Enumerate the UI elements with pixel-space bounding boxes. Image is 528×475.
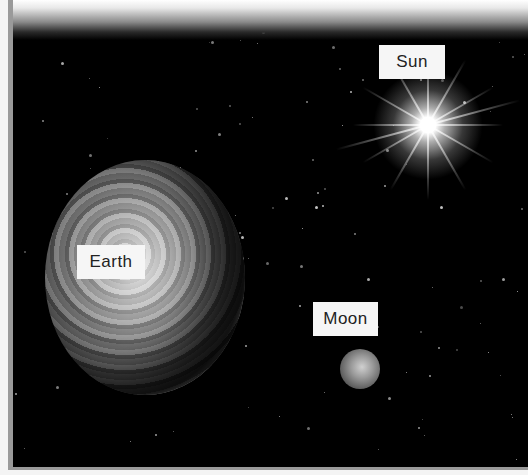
star: [209, 42, 210, 43]
star: [367, 278, 370, 281]
star: [440, 206, 443, 209]
star: [424, 435, 425, 436]
space-background: [13, 0, 528, 467]
star: [354, 233, 356, 235]
star: [432, 287, 433, 288]
star: [502, 278, 505, 281]
star: [499, 42, 500, 43]
earth-label: Earth: [77, 245, 145, 279]
sun-label: Sun: [379, 45, 445, 79]
star: [257, 43, 258, 44]
star: [456, 349, 458, 351]
star: [89, 78, 90, 79]
star: [99, 87, 100, 88]
star: [342, 125, 343, 126]
moon-image: [340, 349, 380, 389]
star: [488, 352, 489, 353]
star: [516, 459, 517, 460]
star: [240, 40, 241, 41]
star: [130, 441, 131, 442]
star: [279, 416, 280, 417]
star: [241, 236, 244, 239]
star: [322, 205, 324, 207]
star: [306, 101, 308, 103]
star: [524, 54, 525, 55]
star: [61, 62, 64, 65]
earth-image: [45, 160, 245, 395]
star: [252, 117, 253, 118]
star: [429, 375, 431, 377]
star: [420, 331, 422, 333]
star: [315, 206, 318, 209]
star: [332, 46, 335, 49]
star: [378, 449, 379, 450]
star: [422, 419, 423, 420]
star: [155, 434, 157, 436]
star: [500, 375, 501, 376]
star: [56, 386, 59, 389]
star: [512, 417, 513, 418]
star: [195, 150, 197, 152]
star: [406, 372, 407, 373]
star: [480, 323, 481, 324]
star: [196, 108, 198, 110]
star: [173, 431, 174, 432]
star: [266, 262, 269, 265]
star: [15, 393, 17, 395]
star: [239, 232, 241, 234]
star: [24, 448, 25, 449]
star: [480, 280, 482, 282]
top-haze: [13, 0, 528, 40]
star: [239, 123, 241, 125]
star: [235, 215, 236, 216]
star: [324, 392, 325, 393]
star: [302, 228, 303, 229]
star: [300, 265, 303, 268]
star: [66, 193, 68, 195]
star: [248, 258, 249, 259]
star: [521, 208, 523, 210]
star: [299, 305, 301, 307]
star: [245, 345, 247, 347]
star: [285, 197, 288, 200]
star: [307, 427, 310, 430]
star: [418, 427, 420, 429]
star: [107, 138, 108, 139]
star: [312, 159, 314, 161]
moon-label: Moon: [313, 302, 378, 336]
sun-image: [353, 60, 503, 190]
star: [438, 347, 440, 349]
star: [511, 414, 512, 415]
star: [218, 133, 221, 136]
star: [272, 207, 274, 209]
star: [339, 68, 341, 70]
star: [460, 306, 463, 309]
star: [350, 91, 352, 93]
star: [248, 407, 249, 408]
star: [24, 251, 26, 253]
star: [211, 41, 214, 44]
star: [42, 120, 44, 122]
star: [90, 168, 91, 169]
star: [324, 188, 326, 190]
star: [229, 105, 231, 107]
star: [317, 192, 319, 194]
star: [89, 154, 92, 157]
star: [512, 56, 514, 58]
star: [517, 291, 518, 292]
star: [388, 397, 391, 400]
